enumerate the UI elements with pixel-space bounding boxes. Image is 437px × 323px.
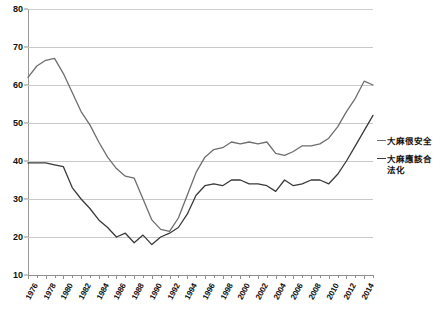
- x-axis-label: 2008: [307, 282, 323, 301]
- x-axis-tick: [134, 275, 135, 279]
- x-axis-tick: [231, 275, 232, 278]
- x-axis-label: 1992: [165, 282, 181, 301]
- y-axis-label: 30: [13, 194, 23, 204]
- y-axis-label: 70: [13, 42, 23, 52]
- y-axis-label: 20: [13, 232, 23, 242]
- x-axis-tick: [373, 275, 374, 278]
- y-axis-label: 40: [13, 156, 23, 166]
- x-axis-tick: [249, 275, 250, 278]
- x-axis-label: 2004: [271, 282, 287, 301]
- x-axis-label: 2010: [325, 282, 341, 301]
- x-axis-tick: [63, 275, 64, 279]
- x-axis-tick: [205, 275, 206, 279]
- x-axis-tick: [108, 275, 109, 278]
- x-axis-label: 1982: [77, 282, 93, 301]
- x-axis-tick: [311, 275, 312, 279]
- y-axis-label: 80: [13, 4, 23, 14]
- x-axis-label: 1998: [218, 282, 234, 301]
- x-axis-tick: [37, 275, 38, 278]
- x-axis-label: 1976: [24, 282, 40, 301]
- x-axis-label: 1994: [183, 282, 199, 301]
- series-line: [28, 58, 373, 231]
- legend-item-safe: 大麻很安全: [377, 136, 437, 146]
- x-axis-tick: [116, 275, 117, 279]
- legend-swatch-icon: [377, 140, 386, 141]
- x-axis-tick: [329, 275, 330, 279]
- x-axis-label: 2014: [360, 282, 376, 301]
- x-axis-tick: [152, 275, 153, 279]
- x-axis-label: 1990: [148, 282, 164, 301]
- x-axis-tick: [178, 275, 179, 278]
- legend-label: 大麻應該合法化: [387, 154, 437, 175]
- x-axis-tick: [72, 275, 73, 278]
- x-axis-tick: [196, 275, 197, 278]
- x-axis-label: 2006: [289, 282, 305, 301]
- x-axis-tick: [355, 275, 356, 278]
- x-axis-tick: [46, 275, 47, 279]
- x-axis-label: 2002: [254, 282, 270, 301]
- x-axis-label: 2012: [342, 282, 358, 301]
- x-axis-tick: [55, 275, 56, 278]
- x-axis-tick: [214, 275, 215, 278]
- y-axis-label: 10: [13, 270, 23, 280]
- series-line: [28, 115, 373, 244]
- x-axis-tick: [302, 275, 303, 278]
- x-axis-tick: [276, 275, 277, 279]
- x-axis-label: 1984: [95, 282, 111, 301]
- x-axis-tick: [170, 275, 171, 279]
- chart-figure: 1020304050607080 19761978198019821984198…: [0, 0, 437, 323]
- x-axis-label: 2000: [236, 282, 252, 301]
- x-axis-label: 1988: [130, 282, 146, 301]
- legend-item-legalize: 大麻應該合法化: [377, 154, 437, 175]
- x-axis-tick: [99, 275, 100, 279]
- x-axis-tick: [338, 275, 339, 278]
- x-axis-tick: [320, 275, 321, 278]
- x-axis-tick: [161, 275, 162, 278]
- x-axis-label: 1996: [201, 282, 217, 301]
- y-axis-label: 50: [13, 118, 23, 128]
- y-axis-label: 60: [13, 80, 23, 90]
- x-axis-line: [28, 275, 373, 276]
- x-axis-tick: [285, 275, 286, 278]
- legend-swatch-icon: [377, 158, 386, 159]
- x-axis-tick: [258, 275, 259, 279]
- series-lines: [28, 9, 373, 275]
- x-axis-tick: [125, 275, 126, 278]
- x-axis-tick: [90, 275, 91, 278]
- legend-label: 大麻很安全: [387, 136, 437, 146]
- x-axis-tick: [187, 275, 188, 279]
- chart-legend: 大麻很安全 大麻應該合法化: [377, 136, 437, 183]
- x-axis-tick: [364, 275, 365, 279]
- x-axis-tick: [293, 275, 294, 279]
- x-axis-label: 1978: [41, 282, 57, 301]
- x-axis-tick: [81, 275, 82, 279]
- plot-area: 1020304050607080: [28, 9, 373, 275]
- x-axis-tick: [267, 275, 268, 278]
- x-axis-tick: [346, 275, 347, 279]
- x-axis-tick: [143, 275, 144, 278]
- x-axis-tick: [240, 275, 241, 279]
- x-axis-tick: [223, 275, 224, 279]
- chart-caption: [55, 315, 385, 323]
- x-axis-label: 1980: [59, 282, 75, 301]
- x-axis-label: 1986: [112, 282, 128, 301]
- x-axis-tick: [28, 275, 29, 279]
